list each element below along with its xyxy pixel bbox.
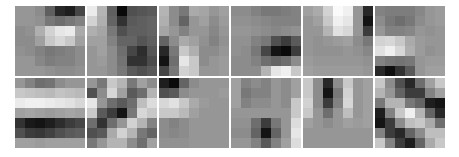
- filter-pixel: [353, 108, 363, 118]
- filter-pixel: [179, 46, 189, 56]
- filter-pixel: [353, 138, 363, 148]
- filter-pixel: [15, 36, 25, 46]
- filter-pixel: [251, 98, 261, 108]
- filter-pixel: [199, 88, 209, 98]
- filter-pixel: [395, 88, 405, 98]
- filter-pixel: [169, 108, 179, 118]
- filter-pixel: [169, 88, 179, 98]
- filter-pixel: [291, 66, 301, 76]
- filter-tile: [15, 78, 85, 148]
- filter-pixel: [435, 36, 445, 46]
- filter-pixel: [353, 16, 363, 26]
- filter-pixel: [107, 108, 117, 118]
- filter-pixel: [251, 36, 261, 46]
- filter-pixel: [251, 56, 261, 66]
- filter-pixel: [375, 46, 385, 56]
- filter-pixel: [353, 118, 363, 128]
- filter-pixel: [35, 78, 45, 88]
- filter-pixel: [25, 88, 35, 98]
- filter-pixel: [219, 36, 229, 46]
- filter-pixel: [65, 16, 75, 26]
- filter-pixel: [363, 78, 373, 88]
- filter-pixel: [363, 56, 373, 66]
- filter-pixel: [435, 118, 445, 128]
- filter-pixel: [199, 56, 209, 66]
- filter-pixel: [117, 56, 127, 66]
- filter-pixel: [313, 98, 323, 108]
- filter-pixel: [435, 66, 445, 76]
- filter-pixel: [179, 26, 189, 36]
- filter-pixel: [313, 56, 323, 66]
- filter-pixel: [395, 98, 405, 108]
- filter-pixel: [75, 36, 85, 46]
- filter-pixel: [425, 128, 435, 138]
- filter-pixel: [189, 36, 199, 46]
- filter-pixel: [333, 78, 343, 88]
- filter-pixel: [87, 98, 97, 108]
- filter-pixel: [303, 88, 313, 98]
- filter-pixel: [55, 6, 65, 16]
- filter-pixel: [179, 118, 189, 128]
- filter-pixel: [117, 66, 127, 76]
- filter-pixel: [35, 138, 45, 148]
- filter-pixel: [375, 128, 385, 138]
- filter-pixel: [209, 118, 219, 128]
- filter-pixel: [55, 56, 65, 66]
- filter-pixel: [159, 118, 169, 128]
- filter-pixel: [15, 138, 25, 148]
- filter-pixel: [219, 56, 229, 66]
- filter-pixel: [117, 46, 127, 56]
- filter-pixel: [87, 88, 97, 98]
- filter-pixel: [323, 108, 333, 118]
- filter-pixel: [303, 56, 313, 66]
- filter-pixel: [15, 128, 25, 138]
- filter-pixel: [159, 6, 169, 16]
- filter-pixel: [353, 26, 363, 36]
- filter-pixel: [291, 78, 301, 88]
- filter-pixel: [405, 88, 415, 98]
- filter-pixel: [303, 66, 313, 76]
- filter-pixel: [343, 78, 353, 88]
- filter-pixel: [363, 128, 373, 138]
- filter-pixel: [137, 78, 147, 88]
- filter-pixel: [435, 46, 445, 56]
- filter-pixel: [281, 36, 291, 46]
- filter-pixel: [15, 6, 25, 16]
- filter-pixel: [363, 88, 373, 98]
- filter-pixel: [127, 128, 137, 138]
- filter-pixel: [15, 16, 25, 26]
- filter-pixel: [97, 108, 107, 118]
- filter-pixel: [137, 108, 147, 118]
- filter-pixel: [209, 66, 219, 76]
- filter-pixel: [107, 78, 117, 88]
- filter-pixel: [169, 98, 179, 108]
- filter-pixel: [395, 6, 405, 16]
- filter-pixel: [271, 56, 281, 66]
- filter-pixel: [353, 78, 363, 88]
- filter-pixel: [313, 108, 323, 118]
- filter-pixel: [241, 36, 251, 46]
- filter-pixel: [45, 88, 55, 98]
- filter-pixel: [343, 6, 353, 16]
- filter-pixel: [241, 98, 251, 108]
- filter-pixel: [117, 108, 127, 118]
- filter-pixel: [219, 66, 229, 76]
- filter-pixel: [55, 26, 65, 36]
- filter-pixel: [15, 88, 25, 98]
- filter-pixel: [179, 138, 189, 148]
- filter-pixel: [159, 46, 169, 56]
- filter-pixel: [147, 46, 157, 56]
- filter-pixel: [219, 16, 229, 26]
- filter-grid: [15, 6, 445, 148]
- filter-pixel: [385, 108, 395, 118]
- filter-pixel: [241, 56, 251, 66]
- filter-pixel: [169, 128, 179, 138]
- filter-pixel: [127, 98, 137, 108]
- filter-pixel: [405, 108, 415, 118]
- filter-pixel: [323, 138, 333, 148]
- filter-pixel: [75, 46, 85, 56]
- filter-pixel: [107, 66, 117, 76]
- filter-tile: [159, 6, 229, 76]
- filter-pixel: [189, 88, 199, 98]
- filter-pixel: [385, 78, 395, 88]
